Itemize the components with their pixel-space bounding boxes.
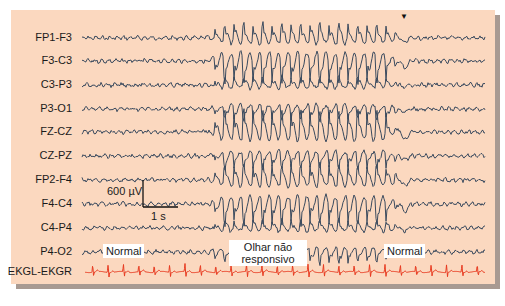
channel-label: F4-C4 (0, 197, 72, 209)
channel-label: CZ-PZ (0, 149, 72, 161)
annotation-normal-after: Normal (384, 244, 425, 258)
eeg-trace (82, 75, 485, 91)
seizure-end-marker-icon: ▼ (400, 12, 408, 21)
channel-label: P4-O2 (0, 245, 72, 257)
channel-label: FP2-F4 (0, 173, 72, 185)
eeg-trace (82, 22, 485, 46)
channel-label: EKGL-EKGR (0, 265, 72, 277)
channel-label: F3-C3 (0, 54, 72, 66)
channel-label: FP1-F3 (0, 31, 72, 43)
calibration-amplitude-label: 600 µV (107, 185, 142, 197)
channel-label: P3-O1 (0, 102, 72, 114)
eeg-trace (82, 103, 485, 122)
channel-label: C4-P4 (0, 221, 72, 233)
eeg-trace (82, 218, 485, 233)
channel-label: C3-P3 (0, 78, 72, 90)
annotation-seizure: Olhar não responsivo (229, 240, 307, 266)
calibration-time-label: 1 s (151, 210, 166, 222)
annotation-normal-before: Normal (103, 244, 144, 258)
eeg-trace (82, 149, 485, 170)
channel-label: FZ-CZ (0, 125, 72, 137)
eeg-trace (82, 51, 485, 85)
